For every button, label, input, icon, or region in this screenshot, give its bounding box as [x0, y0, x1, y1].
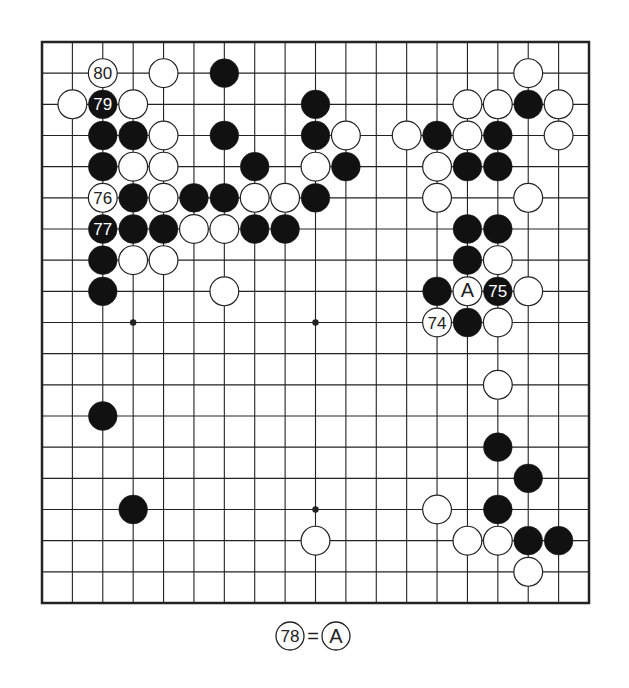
white-stone [210, 215, 239, 244]
white-stone [544, 121, 573, 150]
white-stone [483, 526, 512, 555]
black-stone [423, 277, 452, 306]
white-stone [483, 246, 512, 275]
white-stone [514, 557, 543, 586]
white-stone [483, 90, 512, 119]
white-stone [453, 121, 482, 150]
caption-target-label: A [329, 625, 343, 647]
black-stone [88, 152, 117, 181]
white-stone: 74 [423, 308, 452, 337]
hoshi-point [312, 319, 318, 325]
white-stone [119, 246, 148, 275]
black-stone [483, 433, 512, 462]
black-stone [210, 121, 239, 150]
white-stone [423, 495, 452, 524]
white-stone [149, 59, 178, 88]
stone-move-label: A [461, 279, 475, 301]
black-stone [119, 183, 148, 212]
stone-move-label: 76 [93, 189, 112, 208]
white-stone [271, 183, 300, 212]
hoshi-point [312, 506, 318, 512]
white-stone [58, 90, 87, 119]
stone-move-label: 80 [93, 64, 112, 83]
black-stone [119, 495, 148, 524]
black-stone [483, 495, 512, 524]
black-stone [483, 215, 512, 244]
white-stone [149, 121, 178, 150]
white-stone [119, 152, 148, 181]
stone-move-label: 75 [488, 282, 507, 301]
black-stone [301, 183, 330, 212]
white-stone [331, 121, 360, 150]
black-stone [271, 215, 300, 244]
black-stone [119, 121, 148, 150]
white-stone [453, 526, 482, 555]
white-stone [544, 90, 573, 119]
white-stone [149, 183, 178, 212]
black-stone [453, 308, 482, 337]
white-stone [301, 526, 330, 555]
black-stone [483, 152, 512, 181]
hoshi-point [130, 319, 136, 325]
white-stone: 76 [88, 183, 117, 212]
black-stone [240, 215, 269, 244]
black-stone [88, 277, 117, 306]
white-stone [240, 183, 269, 212]
black-stone [453, 215, 482, 244]
white-stone [149, 152, 178, 181]
caption-equals: = [307, 625, 319, 647]
white-stone [180, 215, 209, 244]
white-stone [149, 246, 178, 275]
white-stone [514, 183, 543, 212]
black-stone [88, 246, 117, 275]
black-stone [240, 152, 269, 181]
black-stone: 75 [483, 277, 512, 306]
white-stone [514, 59, 543, 88]
white-stone [119, 90, 148, 119]
caption: 78 = A [276, 622, 350, 650]
black-stone: 77 [88, 215, 117, 244]
white-stone [453, 90, 482, 119]
black-stone [149, 215, 178, 244]
black-stone [453, 152, 482, 181]
white-stone [483, 370, 512, 399]
black-stone [514, 90, 543, 119]
white-stone [423, 152, 452, 181]
white-stone: 80 [88, 59, 117, 88]
black-stone [514, 464, 543, 493]
stone-move-label: 79 [93, 95, 112, 114]
white-stone [210, 277, 239, 306]
black-stone [88, 402, 117, 431]
black-stone [331, 152, 360, 181]
black-stone [453, 246, 482, 275]
go-board: 80797677A7574 78 = A [0, 0, 629, 688]
black-stone [210, 59, 239, 88]
white-stone [423, 183, 452, 212]
black-stone [423, 121, 452, 150]
caption-move-label: 78 [281, 627, 300, 646]
stone-move-label: 77 [93, 220, 112, 239]
black-stone [119, 215, 148, 244]
black-stone [544, 526, 573, 555]
white-stone [514, 277, 543, 306]
black-stone [514, 526, 543, 555]
black-stone [210, 183, 239, 212]
black-stone [180, 183, 209, 212]
white-stone: A [453, 277, 482, 306]
white-stone [301, 152, 330, 181]
stone-move-label: 74 [428, 314, 447, 333]
black-stone [301, 121, 330, 150]
white-stone [392, 121, 421, 150]
black-stone [88, 121, 117, 150]
black-stone: 79 [88, 90, 117, 119]
black-stone [483, 121, 512, 150]
black-stone [301, 90, 330, 119]
white-stone [483, 308, 512, 337]
